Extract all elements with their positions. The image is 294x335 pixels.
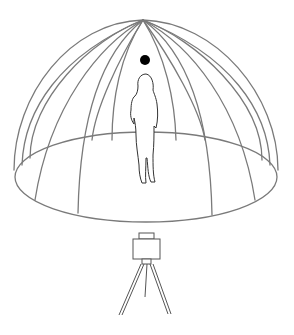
tripod-leg [122, 264, 144, 315]
dome-illustration [0, 0, 294, 335]
diagram-canvas: light dome capture setup [0, 0, 294, 335]
dome-meridian [22, 20, 143, 165]
camera-on-tripod [119, 233, 171, 315]
tripod-leg [150, 264, 168, 314]
tripod-leg [145, 264, 147, 297]
tripod-head [142, 259, 151, 264]
camera-top [139, 233, 154, 239]
standing-person [131, 74, 158, 183]
tripod-leg-edge [153, 264, 171, 314]
person-silhouette [131, 74, 158, 183]
camera-body-icon [133, 239, 160, 259]
dome-meridian [143, 20, 262, 160]
point-light-icon [140, 55, 150, 65]
tripod-leg-edge [119, 264, 141, 315]
